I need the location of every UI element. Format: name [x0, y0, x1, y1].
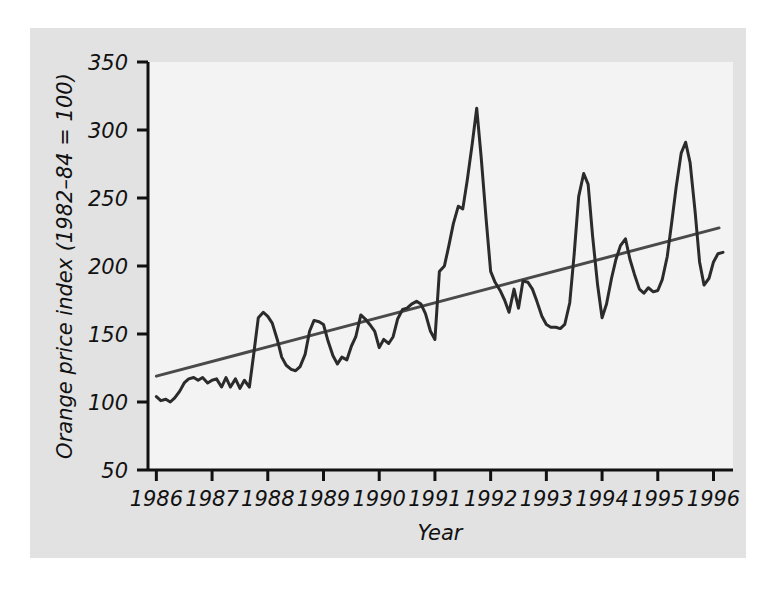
y-tick-label: 150: [88, 323, 128, 347]
x-axis-ticks: [156, 470, 713, 481]
x-tick-label: 1995: [631, 487, 684, 511]
x-tick-label: 1989: [297, 487, 350, 511]
y-axis-title: Orange price index (1982–84 = 100): [53, 73, 77, 459]
y-axis-ticks: [137, 62, 148, 470]
figure-root: 50100150200250300350 1986198719881989199…: [0, 0, 780, 589]
y-axis-tick-labels: 50100150200250300350: [88, 51, 128, 483]
x-tick-label: 1990: [352, 487, 405, 511]
x-axis: 1986198719881989199019911992199319941995…: [130, 470, 741, 511]
y-tick-label: 250: [88, 187, 128, 211]
x-tick-label: 1993: [520, 487, 573, 511]
y-tick-label: 200: [88, 255, 128, 279]
x-tick-label: 1994: [575, 487, 628, 511]
orange-price-index-line-chart: 50100150200250300350 1986198719881989199…: [0, 0, 780, 589]
x-tick-label: 1988: [241, 487, 294, 511]
y-tick-label: 300: [88, 119, 128, 143]
y-tick-label: 350: [88, 51, 128, 75]
x-tick-label: 1987: [185, 487, 239, 511]
y-tick-label: 50: [101, 459, 128, 483]
x-tick-label: 1986: [130, 487, 183, 511]
x-tick-label: 1996: [687, 487, 740, 511]
y-axis: 50100150200250300350: [88, 51, 148, 483]
x-axis-title: Year: [418, 521, 464, 545]
plot-area-background: [148, 62, 733, 470]
x-tick-label: 1992: [464, 487, 517, 511]
x-tick-label: 1991: [408, 487, 461, 511]
x-axis-tick-labels: 1986198719881989199019911992199319941995…: [130, 487, 741, 511]
y-tick-label: 100: [88, 391, 128, 415]
